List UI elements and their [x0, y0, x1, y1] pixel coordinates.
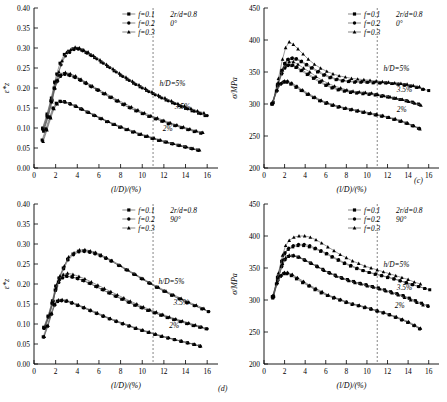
series-0	[41, 47, 206, 130]
x-tick-label: 4	[75, 171, 79, 180]
chart-svg-panel-d-left: 0.000.050.100.150.200.250.300.350.400246…	[0, 196, 228, 392]
x-tick-label: 10	[139, 367, 147, 376]
y-tick-label: 450	[249, 200, 260, 209]
marker-circle	[300, 60, 303, 63]
y-axis-label: σ/MPa	[230, 273, 239, 295]
annotation-2: 2%	[395, 301, 405, 310]
marker-circle	[207, 310, 210, 313]
x-tick-label: 4	[75, 367, 79, 376]
figure-root: 0.000.050.100.150.200.250.300.350.400246…	[0, 0, 447, 402]
y-axis-label: σ/MPa	[230, 77, 239, 99]
y-tick-label: 450	[249, 4, 260, 13]
legend-label: f=0.1	[364, 206, 380, 215]
x-tick-label: 0	[262, 171, 266, 180]
marker-circle	[374, 272, 377, 275]
x-tick-label: 2	[283, 367, 287, 376]
legend-marker-circle	[127, 217, 130, 220]
legend-marker-circle	[127, 21, 130, 24]
x-tick-label: 2	[283, 171, 287, 180]
series-line	[44, 47, 204, 131]
marker-circle	[291, 63, 294, 66]
series-2	[43, 248, 206, 329]
x-tick-label: 12	[160, 171, 168, 180]
marker-triangle	[170, 99, 174, 102]
legend-note: 0°	[396, 19, 403, 28]
marker-square	[427, 89, 430, 92]
y-tick-label: 250	[249, 328, 260, 337]
legend-label: f=0.1	[138, 206, 154, 215]
y-axis-label: ε*z	[2, 82, 11, 93]
series-2	[42, 45, 206, 132]
legend-label: f=0.3	[364, 224, 381, 233]
x-tick-label: 6	[324, 367, 328, 376]
series-1	[43, 250, 211, 330]
marker-triangle	[124, 75, 128, 78]
annotation-0: h/D=5%	[158, 277, 184, 286]
marker-circle	[362, 269, 365, 272]
marker-triangle	[157, 93, 161, 96]
marker-triangle	[137, 83, 141, 86]
marker-circle	[337, 258, 340, 261]
marker-circle	[320, 249, 323, 252]
y-tick-label: 200	[249, 164, 260, 173]
x-tick-label: 0	[262, 367, 266, 376]
marker-triangle	[351, 259, 355, 262]
legend: f=0.1f=0.2f=0.32r/d=0.890°	[122, 206, 197, 233]
marker-circle	[71, 276, 74, 279]
y-axis-label: ε*z	[2, 278, 11, 289]
marker-circle	[303, 243, 306, 246]
x-tick-label: 14	[182, 171, 190, 180]
marker-circle	[287, 63, 290, 66]
y-tick-label: 0.25	[17, 260, 30, 269]
x-tick-label: 14	[182, 367, 190, 376]
legend-note: 2r/d=0.8	[170, 206, 197, 215]
marker-circle	[325, 252, 328, 255]
x-tick-label: 14	[404, 171, 412, 180]
legend-note: 2r/d=0.8	[396, 10, 423, 19]
legend-label: f=0.1	[364, 10, 380, 19]
marker-triangle	[284, 46, 288, 49]
y-tick-label: 0.35	[17, 24, 30, 33]
marker-circle	[424, 287, 427, 290]
x-tick-label: 12	[384, 171, 392, 180]
y-tick-label: 0.40	[17, 4, 30, 13]
y-tick-label: 0.30	[17, 240, 30, 249]
legend: f=0.1f=0.2f=0.32r/d=0.80°	[122, 10, 197, 37]
subfigure-caption-d: (d)	[218, 384, 227, 393]
marker-circle	[295, 57, 298, 60]
annotation-0: h/D=5%	[160, 79, 186, 88]
chart-svg-panel-c-left: 0.000.050.100.150.200.250.300.350.400246…	[0, 0, 228, 196]
y-tick-label: 350	[249, 68, 260, 77]
marker-circle	[323, 73, 326, 76]
legend-note: 0°	[170, 19, 177, 28]
marker-triangle	[144, 87, 148, 90]
x-tick-label: 12	[384, 367, 392, 376]
marker-circle	[206, 327, 209, 330]
legend-label: f=0.2	[138, 215, 155, 224]
x-tick-label: 8	[345, 367, 349, 376]
marker-circle	[427, 305, 430, 308]
marker-circle	[291, 56, 294, 59]
marker-triangle	[302, 66, 306, 69]
y-tick-label: 0.15	[17, 104, 30, 113]
y-tick-label: 400	[249, 232, 260, 241]
marker-circle	[368, 271, 371, 274]
series-line	[44, 252, 209, 328]
y-tick-label: 0.00	[17, 360, 30, 369]
marker-triangle	[314, 238, 318, 241]
marker-triangle	[163, 96, 167, 99]
y-tick-label: 350	[249, 264, 260, 273]
series-line	[43, 49, 207, 130]
marker-circle	[349, 264, 352, 267]
legend-note: 2r/d=0.8	[396, 206, 423, 215]
legend-note: 90°	[396, 215, 406, 224]
y-tick-label: 0.30	[17, 44, 30, 53]
y-tick-label: 0.00	[17, 164, 30, 173]
marker-circle	[331, 255, 334, 258]
marker-triangle	[281, 57, 285, 60]
legend-marker-circle	[353, 217, 356, 220]
marker-circle	[380, 274, 383, 277]
x-tick-label: 2	[54, 367, 58, 376]
marker-circle	[206, 114, 209, 117]
legend-label: f=0.2	[364, 19, 381, 28]
